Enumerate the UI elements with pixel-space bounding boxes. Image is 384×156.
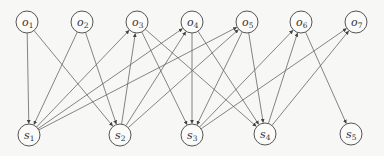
node-o4: o4 (181, 11, 203, 33)
edge-o6-s5 (306, 32, 347, 124)
node-s3: s3 (181, 124, 203, 146)
node-o2: o2 (71, 11, 93, 33)
node-s2: s2 (109, 124, 131, 146)
node-o6: o6 (290, 11, 312, 33)
edge-s1-o5 (39, 27, 237, 130)
edge-s1-o3 (37, 30, 130, 127)
edge-s2-o5 (128, 30, 238, 128)
edge-layer (27, 27, 349, 130)
edge-o3-s4 (145, 29, 256, 126)
node-o1: o1 (16, 11, 38, 33)
node-o3: o3 (126, 11, 148, 33)
edge-s3-o6 (200, 30, 293, 127)
edge-o1-s1 (27, 33, 29, 124)
edge-s2-o3 (122, 33, 136, 124)
node-s1: s1 (18, 124, 40, 146)
node-layer: o1o2o3o4o5o6o7s1s2s3s4s5 (16, 11, 367, 146)
edge-o5-s4 (249, 33, 264, 123)
edge-s2-o4 (126, 32, 186, 126)
edge-o2-s2 (86, 32, 117, 124)
edge-s4-o7 (272, 31, 349, 126)
edge-s4-o6 (268, 33, 297, 124)
node-o7: o7 (345, 11, 367, 33)
edge-s1-o4 (38, 29, 183, 129)
graph-canvas: o1o2o3o4o5o6o7s1s2s3s4s5 (0, 0, 384, 156)
node-o5: o5 (236, 11, 258, 33)
node-s5: s5 (340, 123, 362, 145)
edge-o2-s1 (34, 32, 77, 125)
node-s4: s4 (254, 123, 276, 145)
